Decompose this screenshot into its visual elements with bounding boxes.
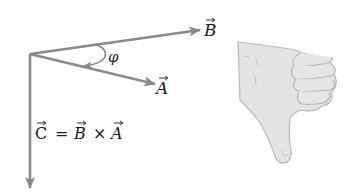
- vector-a: [30, 54, 155, 84]
- equation-equals: =: [55, 124, 68, 143]
- cross-product-diagram: B A φ C = B: [0, 0, 359, 196]
- equation-times: ×: [93, 124, 106, 143]
- vector-a-label: A: [154, 76, 168, 98]
- equation-a: A: [109, 124, 123, 143]
- svg-text:B: B: [203, 20, 217, 40]
- angle-arc: [84, 45, 106, 66]
- cross-product-equation: C = B × A: [35, 121, 123, 143]
- angle-phi-label: φ: [108, 48, 119, 66]
- thumb-down-hand-icon: [238, 42, 336, 163]
- vector-b-label: B: [203, 18, 217, 40]
- svg-text:A: A: [154, 78, 168, 98]
- equation-c: C: [35, 124, 47, 143]
- equation-b: B: [73, 124, 86, 143]
